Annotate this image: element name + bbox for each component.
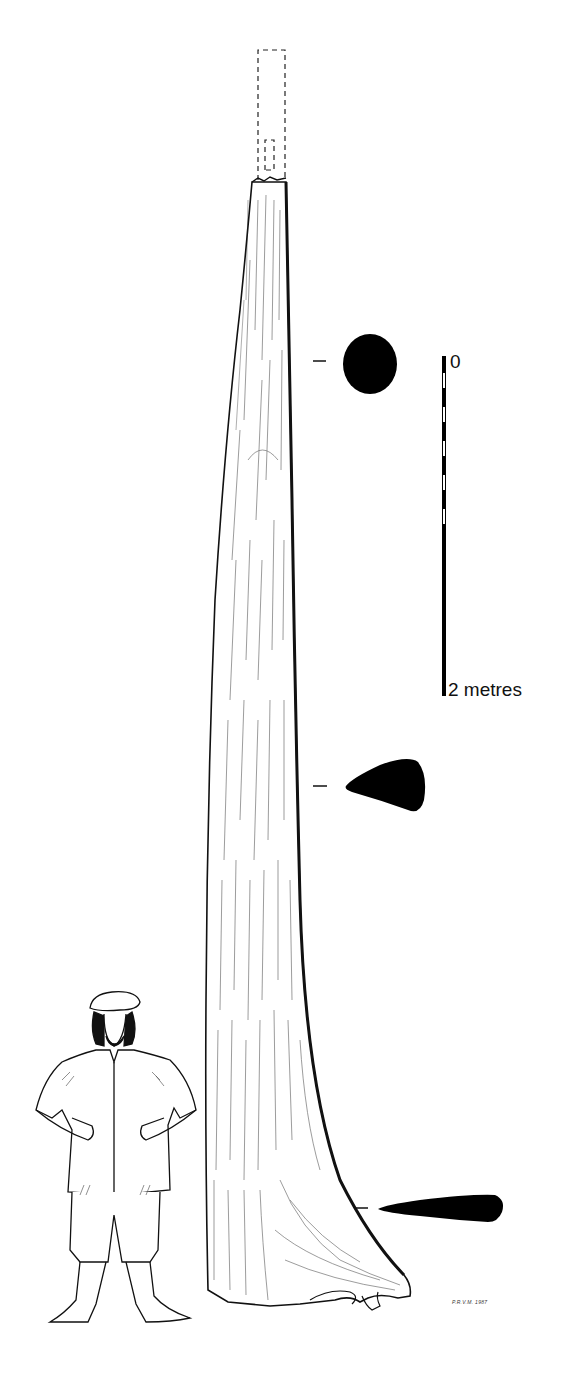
scale-bottom-label: 2 metres — [448, 680, 522, 699]
scale-bar — [442, 356, 446, 696]
section-marker-lower — [355, 1195, 503, 1222]
scale-top-label: 0 — [450, 352, 461, 371]
illustration-canvas: 0 2 metres P.R.V.M. 1987 — [0, 0, 579, 1378]
section-pear-shape — [346, 759, 426, 811]
human-scale-figure — [36, 992, 196, 1322]
artist-signature: P.R.V.M. 1987 — [452, 1299, 487, 1305]
section-round-shape — [343, 334, 397, 394]
section-marker-middle — [313, 759, 425, 811]
section-teardrop-shape — [378, 1195, 503, 1222]
section-marker-upper — [313, 334, 397, 394]
reconstructed-top-outline — [258, 50, 285, 180]
